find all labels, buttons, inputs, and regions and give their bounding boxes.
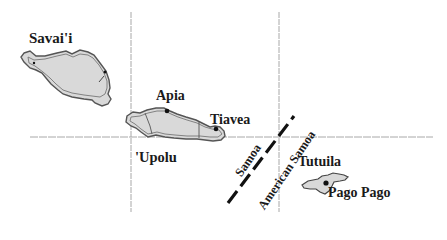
savaii-village-dot-west xyxy=(33,62,35,64)
savaii-village-dot xyxy=(104,71,107,74)
label-tiavea: Tiavea xyxy=(210,113,250,127)
label-tutuila: Tutuila xyxy=(298,155,341,169)
savaii-outer-coast xyxy=(21,50,111,106)
island-savaii xyxy=(21,50,111,106)
apia-dot xyxy=(165,109,170,114)
label-pago-pago: Pago Pago xyxy=(328,186,391,200)
label-upolu: 'Upolu xyxy=(135,150,177,165)
tiavea-dot xyxy=(214,127,219,132)
label-apia: Apia xyxy=(156,89,185,103)
label-savaii: Savai'i xyxy=(29,31,72,46)
